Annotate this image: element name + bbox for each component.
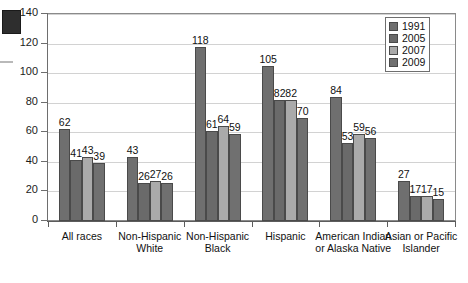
y-axis-label-slot: 120	[0, 37, 38, 48]
bar	[330, 97, 342, 221]
bar	[274, 100, 286, 221]
bar	[353, 134, 365, 221]
legend-label: 2009	[402, 57, 425, 68]
legend-label: 2007	[402, 45, 425, 56]
bar-value-label: 84	[330, 85, 342, 96]
y-axis-tick-label: 60	[4, 125, 38, 136]
bar-value-label: 39	[93, 151, 105, 162]
bar	[127, 157, 139, 221]
y-axis-tick	[41, 13, 48, 14]
bar	[218, 126, 230, 221]
x-axis-tick	[48, 222, 49, 227]
bar-value-label: 59	[229, 122, 241, 133]
bar-value-label: 27	[150, 169, 162, 180]
y-axis-label-slot: 20	[0, 184, 38, 195]
legend-item[interactable]: 2005	[389, 32, 425, 44]
y-axis-tick-label: 80	[4, 96, 38, 107]
bar	[410, 196, 422, 221]
y-axis-tick	[41, 190, 48, 191]
bar	[262, 66, 274, 221]
bar	[161, 183, 173, 221]
y-axis-label-slot: 140	[0, 7, 38, 18]
bar	[285, 100, 297, 221]
y-axis-tick-label: 0	[4, 214, 38, 225]
y-axis-tick-label: 140	[4, 7, 38, 18]
legend-item[interactable]: 1991	[389, 20, 425, 32]
bar-value-label: 62	[59, 117, 71, 128]
y-axis-tick-label: 20	[4, 184, 38, 195]
bar	[93, 163, 105, 221]
x-axis-tick	[319, 222, 320, 227]
bar-value-label: 17	[421, 184, 433, 195]
bar-value-label: 17	[409, 184, 421, 195]
y-axis-tick	[41, 161, 48, 162]
bar	[398, 181, 410, 221]
bar-value-label: 61	[206, 119, 218, 130]
legend-item[interactable]: 2007	[389, 44, 425, 56]
y-axis-label-slot: 60	[0, 125, 38, 136]
bar	[206, 131, 218, 221]
bar-value-label: 26	[138, 171, 150, 182]
y-axis-tick-label: 40	[4, 155, 38, 166]
bar-value-label: 53	[342, 131, 354, 142]
legend: 1991 2005 2007 2009	[385, 17, 430, 72]
bar-value-label: 15	[432, 187, 444, 198]
bar-value-label: 41	[70, 148, 82, 159]
bar	[195, 47, 207, 221]
x-axis-tick	[252, 222, 253, 227]
y-axis-label-slot: 40	[0, 155, 38, 166]
bar-value-label: 59	[353, 122, 365, 133]
bar-value-label: 82	[285, 88, 297, 99]
legend-swatch-2005	[389, 34, 398, 43]
legend-swatch-2009	[389, 58, 398, 67]
x-axis-category-label: Asian or Pacific Islander	[381, 230, 461, 254]
y-axis-tick	[41, 72, 48, 73]
bar-value-label: 64	[217, 114, 229, 125]
legend-label: 2005	[402, 33, 425, 44]
bar	[297, 118, 309, 222]
y-axis-tick	[41, 131, 48, 132]
y-axis-tick-label: 120	[4, 37, 38, 48]
bar-value-label: 56	[365, 126, 377, 137]
legend-item[interactable]: 2009	[389, 56, 425, 68]
bar	[138, 183, 150, 221]
x-axis-tick	[387, 222, 388, 227]
bar-value-label: 43	[82, 145, 94, 156]
bar-value-label: 105	[259, 54, 277, 65]
bar	[82, 157, 94, 221]
bar-value-label: 118	[192, 35, 209, 46]
bar	[433, 199, 445, 221]
bar-value-label: 27	[398, 169, 410, 180]
x-axis-tick	[116, 222, 117, 227]
bar-value-label: 26	[161, 171, 173, 182]
y-axis-tick-label: 100	[4, 66, 38, 77]
x-axis-tick	[184, 222, 185, 227]
bar	[421, 196, 433, 221]
bar-value-label: 82	[274, 88, 286, 99]
bar	[150, 181, 162, 221]
bar	[342, 143, 354, 221]
y-axis-label-slot: 0	[0, 214, 38, 225]
bar	[229, 134, 241, 221]
bar-value-label: 70	[297, 106, 309, 117]
bar-chart: 020406080100120140 All racesNon-Hispanic…	[0, 0, 468, 283]
y-axis-label-slot: 100	[0, 66, 38, 77]
scan-artifact-dash	[0, 61, 13, 63]
legend-label: 1991	[402, 21, 425, 32]
y-axis-tick	[41, 102, 48, 103]
bar-value-label: 43	[127, 145, 139, 156]
y-axis-tick	[41, 43, 48, 44]
y-axis-label-slot: 80	[0, 96, 38, 107]
bar	[365, 138, 377, 221]
legend-swatch-1991	[389, 22, 398, 31]
bar	[59, 129, 71, 221]
legend-swatch-2007	[389, 46, 398, 55]
x-axis-tick	[455, 222, 456, 227]
bar	[70, 160, 82, 221]
